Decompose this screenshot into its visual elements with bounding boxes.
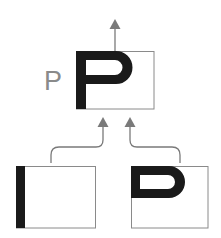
node-bottom-left-bar (16, 166, 96, 228)
edge-right-to-top (125, 117, 181, 163)
node-bottom-right-bowl (131, 166, 208, 228)
vertical-bar-icon (16, 166, 25, 228)
diagram-canvas (0, 0, 221, 238)
output-arrow (110, 19, 121, 51)
node-top-p (76, 51, 154, 109)
edge-left-to-top (51, 117, 109, 163)
